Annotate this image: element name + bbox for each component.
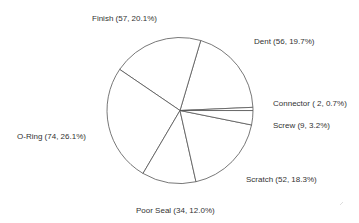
- label-o-ring: O-Ring (74, 26.1%): [17, 132, 86, 141]
- label-scratch: Scratch (52, 18.3%): [246, 175, 317, 184]
- label-dent: Dent (56, 19.7%): [254, 37, 315, 46]
- label-connector: Connector ( 2, 0.7%): [273, 99, 347, 108]
- label-finish: Finish (57, 20.1%): [92, 14, 157, 23]
- label-screw: Screw (9, 3.2%): [273, 121, 330, 130]
- pie-slices: [107, 37, 253, 183]
- pie-chart: Finish (57, 20.1%) Dent (56, 19.7%) Conn…: [0, 0, 359, 223]
- label-poor-seal: Poor Seal (34, 12.0%): [136, 206, 215, 215]
- resize-grip-icon: [340, 202, 343, 205]
